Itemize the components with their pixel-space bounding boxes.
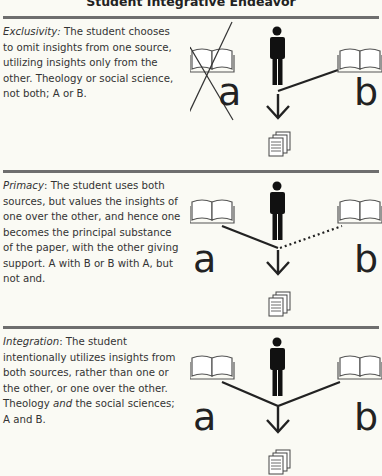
book-icon-b xyxy=(338,356,382,379)
book-icon-a xyxy=(190,200,234,223)
document-stack-icon xyxy=(269,292,290,316)
person-icon xyxy=(270,27,285,86)
label-b: b xyxy=(354,395,378,439)
primacy-diagram: a b xyxy=(190,174,382,324)
label-a: a xyxy=(193,237,216,281)
integration-description: Integration: The student intentionally u… xyxy=(3,334,183,427)
divider-middle-2 xyxy=(3,326,379,329)
primacy-description: Primacy: The student uses both sources, … xyxy=(3,178,183,287)
label-a: a xyxy=(193,395,216,439)
divider-middle-1 xyxy=(3,170,379,173)
divider-top xyxy=(3,16,379,19)
exclusivity-term: Exclusivity: xyxy=(3,26,61,37)
document-stack-icon xyxy=(269,450,290,474)
diagram-title: Student Integrative Endeavor xyxy=(0,0,382,9)
arrow-down-icon xyxy=(267,250,289,274)
integration-term: Integration xyxy=(3,336,59,347)
book-icon-a xyxy=(190,356,234,379)
label-b: b xyxy=(354,70,378,114)
exclusivity-diagram: a b xyxy=(190,20,382,170)
document-stack-icon xyxy=(269,132,290,156)
integration-diagram: a b xyxy=(190,330,382,476)
arrow-down-icon xyxy=(267,94,289,118)
book-icon-b xyxy=(338,49,382,72)
primacy-term: Primacy xyxy=(3,180,44,191)
book-icon-b xyxy=(338,200,382,223)
person-icon xyxy=(270,182,285,241)
label-a: a xyxy=(218,70,241,114)
person-icon xyxy=(270,338,285,397)
arrow-down-icon xyxy=(267,407,289,432)
label-b: b xyxy=(354,237,378,281)
book-icon-a xyxy=(190,49,234,72)
exclusivity-description: Exclusivity: The student chooses to omit… xyxy=(3,24,183,102)
